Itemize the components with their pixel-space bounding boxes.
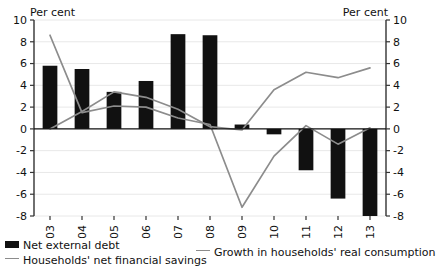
chart-legend: Net external debt Households' net financ…: [0, 238, 420, 269]
svg-text:-4: -4: [393, 166, 404, 179]
svg-text:2: 2: [20, 101, 27, 114]
bar-2012: [331, 129, 346, 199]
legend-label-net-external-debt: Net external debt: [23, 239, 120, 252]
legend-item-households-net-financial-savings: Households' net financial savings: [5, 253, 207, 267]
y-axis-left-title: Per cent: [30, 6, 76, 19]
x-tick-2009: 2009: [236, 225, 249, 238]
svg-text:0: 0: [393, 123, 400, 136]
x-axis-ticks: 2003200420052006200720082009201020112012…: [44, 216, 377, 238]
legend-bar-swatch-icon: [5, 241, 19, 248]
svg-text:8: 8: [20, 36, 27, 49]
x-tick-2007: 2007: [172, 225, 185, 238]
x-tick-2004: 2004: [76, 225, 89, 238]
x-tick-2005: 2005: [108, 225, 121, 238]
legend-item-growth-in-households-real-consumption: Growth in households' real consumption: [196, 245, 436, 259]
svg-text:8: 8: [393, 36, 400, 49]
bar-2008: [203, 35, 218, 129]
svg-text:6: 6: [393, 57, 400, 70]
svg-text:0: 0: [20, 123, 27, 136]
bar-2006: [139, 81, 154, 129]
svg-text:-4: -4: [16, 166, 27, 179]
svg-text:-2: -2: [16, 144, 27, 157]
legend-line-swatch-icon: [5, 258, 19, 259]
bar-2007: [171, 34, 186, 129]
svg-text:10: 10: [13, 14, 27, 27]
legend-label-households-net-financial-savings: Households' net financial savings: [23, 254, 207, 267]
x-tick-2011: 2011: [300, 225, 313, 238]
svg-text:4: 4: [20, 79, 27, 92]
chart-plot-area: 1086420-2-4-6-8 1086420-2-4-6-8 20032004…: [0, 0, 420, 238]
svg-text:4: 4: [393, 79, 400, 92]
legend-item-net-external-debt: Net external debt: [5, 238, 120, 252]
bar-2005: [107, 92, 122, 129]
bar-2013: [363, 129, 378, 216]
legend-label-growth-in-households-real-consumption: Growth in households' real consumption: [214, 246, 436, 259]
y-axis-right-title: Per cent: [343, 6, 389, 19]
x-tick-2012: 2012: [332, 225, 345, 238]
bar-2003: [43, 66, 58, 129]
y-axis-right-ticks: 1086420-2-4-6-8: [386, 14, 407, 223]
x-tick-2003: 2003: [44, 225, 57, 238]
x-tick-2008: 2008: [204, 225, 217, 238]
x-tick-2013: 2013: [364, 225, 377, 238]
svg-text:-8: -8: [393, 210, 404, 223]
svg-text:-6: -6: [393, 188, 404, 201]
x-tick-2006: 2006: [140, 225, 153, 238]
svg-text:-2: -2: [393, 144, 404, 157]
svg-text:6: 6: [20, 57, 27, 70]
bar-2010: [267, 129, 282, 134]
svg-text:10: 10: [393, 14, 407, 27]
y-axis-left-ticks: 1086420-2-4-6-8: [13, 14, 34, 223]
svg-text:-8: -8: [16, 210, 27, 223]
legend-line-swatch-icon-2: [196, 250, 210, 251]
bar-2011: [299, 129, 314, 170]
svg-text:2: 2: [393, 101, 400, 114]
x-tick-2010: 2010: [268, 225, 281, 238]
svg-text:-6: -6: [16, 188, 27, 201]
